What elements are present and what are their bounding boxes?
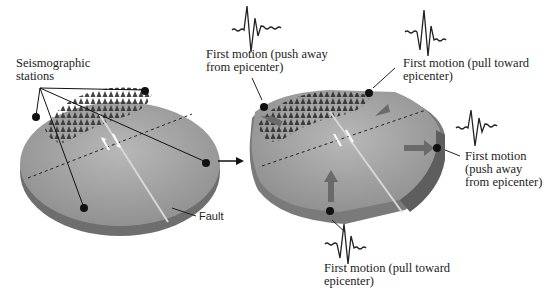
annotation-top-right: First motion (pull toward epicenter) <box>403 57 529 83</box>
seismogram-pull-top-right <box>405 10 446 56</box>
fault-label: Fault <box>199 210 223 222</box>
diagram-graphics <box>0 0 556 294</box>
stations-label: Seismographic stations <box>16 57 90 83</box>
seismogram-push-right <box>456 110 497 146</box>
diagram: Seismographic stations Fault First motio… <box>0 0 556 294</box>
right-arrow-icon <box>218 157 244 165</box>
annotation-right: First motion (push away from epicenter) <box>465 150 542 189</box>
seismogram-pull-bottom <box>325 224 366 264</box>
annotation-top-left: First motion (push away from epicenter) <box>206 48 328 74</box>
annotation-bottom: First motion (pull toward epicenter) <box>324 262 450 288</box>
left-disc <box>20 87 220 236</box>
right-disc <box>250 68 460 232</box>
seismogram-push-top-left <box>232 6 281 52</box>
